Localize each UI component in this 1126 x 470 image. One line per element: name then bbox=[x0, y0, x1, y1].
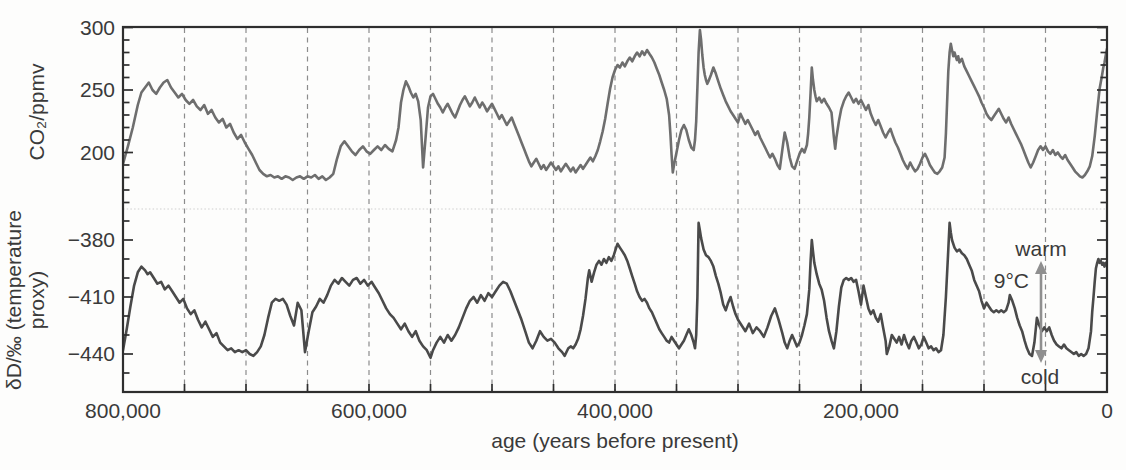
x-tick-label-0: 0 bbox=[1101, 399, 1113, 422]
dD-tick-label-m440: −440 bbox=[68, 342, 115, 365]
x-tick-label-800: 800,000 bbox=[85, 399, 161, 422]
co2-axis-title: CO₂/ppmv bbox=[25, 63, 48, 160]
annotation-warm: warm bbox=[1014, 237, 1066, 260]
x-tick-label-600: 600,000 bbox=[331, 399, 407, 422]
co2-tick-label-200: 200 bbox=[80, 141, 115, 164]
x-tick-label-200: 200,000 bbox=[823, 399, 899, 422]
co2-tick-label-300: 300 bbox=[80, 16, 115, 39]
annotation-cold: cold bbox=[1021, 365, 1060, 388]
chart-canvas: 300250200−380−410−440800,000600,000400,0… bbox=[0, 0, 1126, 470]
dD-tick-label-m410: −410 bbox=[68, 285, 115, 308]
co2-tick-label-250: 250 bbox=[80, 78, 115, 101]
figure-background bbox=[0, 0, 1126, 470]
ice-core-co2-temperature-figure: 300250200−380−410−440800,000600,000400,0… bbox=[0, 0, 1126, 470]
annotation-9c: 9°C bbox=[994, 269, 1029, 292]
dd-axis-title-line2: proxy) bbox=[25, 271, 48, 329]
x-axis-title: age (years before present) bbox=[491, 429, 738, 452]
x-tick-label-400: 400,000 bbox=[577, 399, 653, 422]
dD-tick-label-m380: −380 bbox=[68, 228, 115, 251]
dd-axis-title-line1: δD/‰ (temperature bbox=[2, 210, 25, 390]
